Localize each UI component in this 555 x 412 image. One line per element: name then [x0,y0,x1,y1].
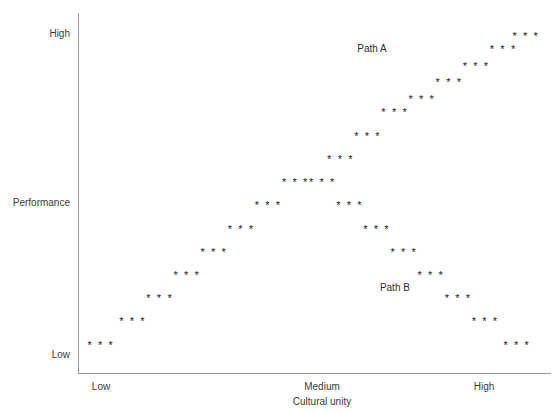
data-point-marker: * * * [408,94,435,105]
data-point-marker: * * * [282,177,309,188]
data-point-marker: * * * [354,131,381,142]
x-axis-line [78,373,551,374]
y-axis-line [78,13,79,373]
y-axis-tick-high: High [6,28,70,39]
x-axis-tick-medium: Medium [304,381,340,392]
y-axis-tick-low: Low [6,349,70,360]
data-point-marker: * * * [381,107,408,118]
data-point-marker: * * * [88,340,115,351]
data-point-marker: * * * [472,316,499,327]
data-point-marker: * * * [336,200,363,211]
data-point-marker: * * * [418,270,445,281]
data-point-marker: * * * [445,293,472,304]
data-point-marker: * * * [201,247,228,258]
x-axis-tick-low: Low [92,381,110,392]
path-a-label: Path A [357,43,386,54]
x-axis-tick-high: High [474,381,495,392]
data-point-marker: * * * [503,340,530,351]
path-b-label: Path B [380,282,410,293]
data-point-marker: * * * [173,270,200,281]
data-point-marker: * * * [255,200,282,211]
data-point-marker: * * * [390,247,417,258]
chart-container: High Performance Low Low Medium High Cul… [0,0,555,412]
data-point-marker: * * * [463,61,490,72]
data-point-marker: * * * [490,44,517,55]
chart-title [0,0,555,2]
data-point-marker: * * * [327,154,354,165]
data-point-marker: * * * [146,293,173,304]
data-point-marker: * * * [363,224,390,235]
y-axis-title: Performance [6,197,70,208]
data-point-marker: * * * [436,77,463,88]
data-point-marker: * * * [512,31,539,42]
data-point-marker: * * * [119,316,146,327]
data-point-marker: * * * [309,177,336,188]
x-axis-title: Cultural unity [293,396,351,407]
data-point-marker: * * * [228,224,255,235]
